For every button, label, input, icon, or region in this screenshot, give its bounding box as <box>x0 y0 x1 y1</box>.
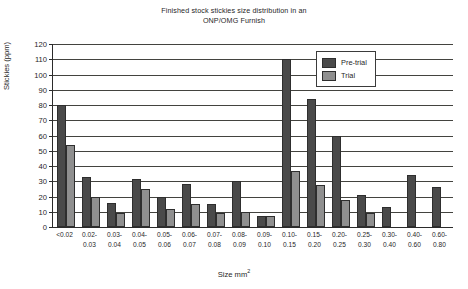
x-axis-tick-label: 0.25-0.30 <box>352 230 377 249</box>
x-axis-tick-label-line: 0.07 <box>177 240 202 250</box>
x-axis-tick-label-line: 0.05 <box>127 240 152 250</box>
x-axis-tick-labels: <0.020.02-0.030.03-0.040.04-0.050.05-0.0… <box>52 230 452 260</box>
legend-label: Pre-trial <box>341 58 367 67</box>
x-axis-tick-label-line: 0.06 <box>152 240 177 250</box>
chart-title: Finished stock stickies size distributio… <box>0 6 468 26</box>
bar-group <box>207 44 225 227</box>
bar-group <box>407 44 425 227</box>
x-axis-tick-label-line: 0.06- <box>177 230 202 240</box>
bar-trial <box>91 197 100 228</box>
bar-group <box>182 44 200 227</box>
x-axis-tick-label: 0.05-0.06 <box>152 230 177 249</box>
bar-group <box>132 44 150 227</box>
x-axis-tick-label: 0.10-0.15 <box>277 230 302 249</box>
x-axis-tick-label: 0.30-0.40 <box>377 230 402 249</box>
x-axis-tick-label: 0.40-0.60 <box>402 230 427 249</box>
x-axis-tick-label-line: 0.25- <box>352 230 377 240</box>
bar-group <box>432 44 450 227</box>
x-axis-tick-label-line: 0.40 <box>377 240 402 250</box>
x-axis-tick-label-line: 0.60 <box>402 240 427 250</box>
y-axis-tick-label: 0 <box>43 223 47 232</box>
x-axis-tick-label: 0.02-0.03 <box>77 230 102 249</box>
x-axis-tick-label-line: 0.05- <box>152 230 177 240</box>
x-axis-tick-label-line: 0.60- <box>427 230 452 240</box>
bar-group <box>82 44 100 227</box>
legend-swatch-icon <box>322 58 336 68</box>
bar-pre-trial <box>57 105 66 227</box>
bar-group <box>282 44 300 227</box>
bar-trial <box>266 216 275 227</box>
legend-swatch-icon <box>322 71 336 81</box>
bar-pre-trial <box>157 197 166 227</box>
y-axis-title: Stickies (ppm) <box>2 42 11 90</box>
x-axis-tick-label-line: 0.07- <box>202 230 227 240</box>
x-axis-tick-label-line: 0.20 <box>302 240 327 250</box>
x-axis-tick-label: 0.08-0.09 <box>227 230 252 249</box>
x-axis-tick-label: 0.06-0.07 <box>177 230 202 249</box>
bar-trial <box>316 185 325 227</box>
bar-pre-trial <box>307 99 316 227</box>
plot-area: 0102030405060708090100110120 <box>52 44 453 228</box>
bar-trial <box>66 145 75 227</box>
y-axis-tick-label: 30 <box>39 177 47 186</box>
x-axis-tick-label-line: 0.30 <box>352 240 377 250</box>
x-axis-tick-label-line: 0.80 <box>427 240 452 250</box>
bar-pre-trial <box>257 216 266 227</box>
y-axis-tick-label: 100 <box>34 70 47 79</box>
bar-group <box>107 44 125 227</box>
x-axis-tick-label-line: 0.30- <box>377 230 402 240</box>
x-axis-tick-label-line: 0.02- <box>77 230 102 240</box>
bar-pre-trial <box>132 179 141 227</box>
bar-trial <box>141 189 150 227</box>
x-axis-tick-label-line: 0.04- <box>127 230 152 240</box>
x-axis-title: Size mm2 <box>0 268 468 279</box>
bar-pre-trial <box>107 203 116 227</box>
x-axis-tick-label-line: 0.15- <box>302 230 327 240</box>
legend-label: Trial <box>341 71 355 80</box>
bar-trial <box>366 213 375 227</box>
y-axis-tick-label: 120 <box>34 40 47 49</box>
y-axis-tick-label: 110 <box>35 55 47 64</box>
bar-group <box>57 44 75 227</box>
y-axis-tick-label: 10 <box>39 207 47 216</box>
x-axis-tick-label: 0.07-0.08 <box>202 230 227 249</box>
x-axis-tick-label-line: 0.10- <box>277 230 302 240</box>
bar-pre-trial <box>182 184 191 227</box>
x-axis-tick-label: 0.15-0.20 <box>302 230 327 249</box>
bar-pre-trial <box>407 175 416 227</box>
y-axis-tick-label: 50 <box>39 146 47 155</box>
bar-group <box>382 44 400 227</box>
chart-figure: Finished stock stickies size distributio… <box>0 0 468 289</box>
x-axis-tick-label: 0.09-0.10 <box>252 230 277 249</box>
x-axis-title-exponent: 2 <box>247 268 250 274</box>
x-axis-tick-label-line: 0.20- <box>327 230 352 240</box>
bar-trial <box>341 200 350 227</box>
x-axis-tick-label: 0.20-0.25 <box>327 230 352 249</box>
y-axis-tick-label: 20 <box>39 192 47 201</box>
bar-group <box>157 44 175 227</box>
y-axis-tick-label: 40 <box>39 162 47 171</box>
x-axis-tick-label-line: 0.09 <box>227 240 252 250</box>
x-axis-tick-label-line: 0.10 <box>252 240 277 250</box>
y-axis-tick-label: 80 <box>39 101 47 110</box>
bar-group <box>257 44 275 227</box>
y-axis-tick-label: 90 <box>39 85 47 94</box>
x-axis-tick-label-line: 0.03 <box>77 240 102 250</box>
bar-pre-trial <box>207 204 216 227</box>
bar-pre-trial <box>382 207 391 227</box>
x-axis-tick-label-line: 0.08 <box>202 240 227 250</box>
x-axis-tick-label-line: 0.15 <box>277 240 302 250</box>
chart-title-line-1: Finished stock stickies size distributio… <box>0 6 468 16</box>
x-axis-tick-label: 0.04-0.05 <box>127 230 152 249</box>
x-axis-tick-label-line: 0.09- <box>252 230 277 240</box>
bars-layer <box>53 44 453 227</box>
bar-trial <box>216 213 225 227</box>
x-axis-tick-label-line: <0.02 <box>52 230 77 240</box>
x-axis-tick-label-line: 0.25 <box>327 240 352 250</box>
bar-trial <box>241 212 250 227</box>
x-axis-tick-label-line: 0.04 <box>102 240 127 250</box>
bar-trial <box>191 204 200 227</box>
x-axis-tick-label: 0.60-0.80 <box>427 230 452 249</box>
x-axis-tick-label-line: 0.08- <box>227 230 252 240</box>
bar-pre-trial <box>82 177 91 227</box>
